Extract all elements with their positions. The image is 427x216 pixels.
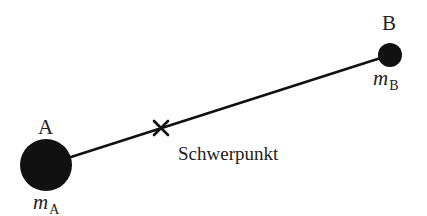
point-a-label: A bbox=[38, 117, 53, 138]
mass-b-symbol: m bbox=[373, 66, 388, 90]
mass-a-subscript: A bbox=[49, 202, 59, 216]
mass-a-label: mA bbox=[33, 192, 59, 213]
mass-a-circle bbox=[20, 139, 72, 191]
mass-a-symbol: m bbox=[33, 190, 48, 214]
mass-b-label: mB bbox=[373, 68, 399, 89]
center-of-mass-label: Schwerpunkt bbox=[178, 144, 278, 163]
mass-b-subscript: B bbox=[389, 78, 398, 93]
point-b-label: B bbox=[382, 13, 396, 34]
mass-b-circle bbox=[378, 43, 402, 67]
center-of-mass-diagram bbox=[0, 0, 427, 216]
